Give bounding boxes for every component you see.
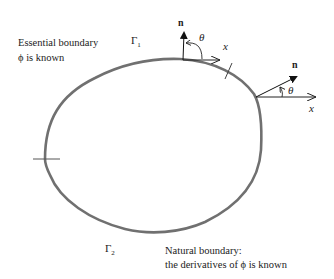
n-label-right: n bbox=[292, 59, 298, 70]
theta-arc-icon bbox=[280, 87, 282, 97]
theta-arc-icon bbox=[186, 43, 202, 59]
natural-boundary-condition: the derivatives of ϕ is known bbox=[165, 259, 288, 270]
gamma2-label: Γ2 bbox=[105, 242, 115, 257]
gamma1-label: Γ1 bbox=[131, 34, 141, 49]
theta-label-top: θ bbox=[199, 31, 205, 43]
boundary-diagram: Essential boundary ϕ is known Γ1 n θ x n… bbox=[0, 0, 334, 279]
n-label-top: n bbox=[178, 17, 184, 28]
domain-boundary bbox=[45, 59, 261, 232]
n-arrow-icon bbox=[183, 33, 184, 60]
theta-label-right: θ bbox=[288, 84, 294, 96]
essential-boundary-condition: ϕ is known bbox=[18, 52, 65, 63]
essential-boundary-label: Essential boundary bbox=[18, 37, 99, 48]
x-label-top: x bbox=[222, 40, 228, 52]
natural-boundary-label: Natural boundary: bbox=[165, 245, 242, 256]
x-label-right: x bbox=[308, 102, 314, 114]
normal-vector-right bbox=[256, 77, 316, 97]
